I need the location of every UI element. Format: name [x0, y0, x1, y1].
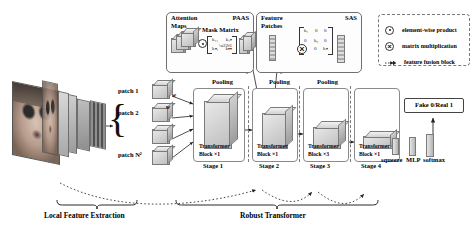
mask-matrix-ellipsis: \u22f1: [219, 43, 232, 48]
legend-label-fusion: feature fusion block: [404, 59, 455, 65]
dashed-arrow-icon: [385, 59, 397, 66]
patch-cube-3: [152, 129, 168, 142]
patch-label-n: patch N²: [118, 152, 142, 159]
stage-1-block-label: Transformer: [199, 144, 230, 150]
sas-matrix-entry-2: 0: [315, 28, 318, 33]
mask-matrix: k₁₁ k₁ₙ kₙ₁ kₙₙ \u22f1: [207, 36, 237, 52]
caption-local-feature-extraction: Local Feature Extraction: [44, 212, 125, 220]
element-wise-product-legend-icon: [385, 26, 394, 35]
stage-4-name: Stage 4: [361, 163, 381, 170]
pooling-label-3: Pooling: [317, 79, 338, 86]
feature-patches-label-line1: Feature: [261, 15, 283, 22]
pooling-label-1: Pooling: [212, 79, 233, 86]
sas-output-bar: [337, 35, 345, 63]
sas-matrix-entry-3: 0: [324, 28, 327, 33]
stage-box-3: Transformer Block ×3: [303, 88, 349, 162]
legend-label-matrix-mult: matrix multiplication: [402, 43, 457, 49]
sas-matrix-entry-6: 0: [324, 38, 327, 43]
squeeze-bar: [392, 138, 399, 155]
patch-cube-n: [152, 150, 168, 163]
stage-4-block-count: Block ×1: [359, 152, 380, 158]
squeeze-label: squeeze: [381, 157, 402, 164]
sas-matrix-entry-8: 0: [314, 46, 317, 51]
mlp-bar: [409, 137, 416, 156]
stage-3-block-label: Transformer: [308, 144, 339, 150]
stage-1-name: Stage 1: [203, 163, 223, 170]
stage-3-block-count: Block ×3: [308, 152, 329, 158]
stage-2-name: Stage 2: [259, 163, 279, 170]
patch-list: patch 1 patch 2 patch N² w w: [116, 86, 178, 170]
patch-cube-1: [152, 84, 168, 97]
architecture-diagram: {: [0, 0, 474, 236]
mlp-label: MLP: [406, 157, 420, 164]
stage-box-1: Transformer Block ×1: [193, 88, 245, 162]
feature-patches-label-line2: Patches: [261, 23, 282, 30]
softmax-label: softmax: [423, 157, 445, 164]
stage-4-block-label: Transformer: [359, 144, 390, 150]
stage-2-tensor: [262, 113, 286, 147]
mask-matrix-label: Mask Matrix: [202, 27, 239, 34]
sas-label: SAS: [345, 15, 357, 22]
output-label-box: Fake 0/Real 1: [404, 98, 464, 113]
stage-3-name: Stage 3: [310, 163, 330, 170]
legend-label-element-wise: element-wise product: [402, 27, 457, 33]
sas-matrix-entry-9: kₙ: [323, 46, 328, 51]
output-label: Fake 0/Real 1: [415, 102, 453, 109]
paas-output-cubes: [239, 33, 253, 55]
paas-label: PAAS: [233, 15, 250, 22]
sas-matrix-entry-1: k₁: [304, 28, 308, 33]
stage-2-block-count: Block ×1: [257, 152, 278, 158]
conv-feature-maps: [56, 84, 108, 168]
patch-weight-1: w: [172, 92, 176, 98]
caption-robust-transformer: Robust Transformer: [240, 212, 306, 220]
patch-label-1: patch 1: [118, 88, 138, 95]
mask-matrix-entry-1n: k₁ₙ: [226, 37, 232, 42]
softmax-bar: [426, 134, 434, 157]
element-wise-product-icon: [198, 39, 207, 48]
matrix-multiplication-icon: ⨯: [297, 44, 307, 54]
matrix-multiplication-legend-icon: ⨯: [385, 42, 394, 51]
pooling-label-2: Pooling: [269, 79, 290, 86]
patch-label-2: patch 2: [118, 110, 138, 117]
attention-maps-label-line1: Attention: [171, 15, 197, 22]
paas-module: Attention Maps PAAS: [166, 12, 254, 73]
sas-module: Feature Patches SAS k₁ 0 0 0 k₂ 0 0 0 kₙ…: [256, 12, 362, 73]
stage-2-block-label: Transformer: [257, 144, 288, 150]
stage-separator-3: [350, 86, 351, 162]
feature-patch-bar: [269, 35, 276, 61]
stage-1-tensor: [204, 101, 230, 147]
stage-separator-1: [248, 86, 249, 162]
attention-map-cubes: [171, 32, 197, 56]
stage-separator-2: [299, 86, 300, 162]
stage-box-2: Transformer Block ×1: [252, 88, 298, 162]
mask-matrix-entry-n1: kₙ₁: [212, 46, 218, 51]
patch-weight-2: w: [166, 104, 170, 110]
local-feature-extraction-group: [12, 78, 108, 174]
stage-1-block-count: Block ×1: [199, 152, 220, 158]
legend-box: element-wise product ⨯ matrix multiplica…: [378, 14, 470, 66]
sas-matrix-entry-4: 0: [304, 38, 307, 43]
legend-item-fusion: feature fusion block: [385, 52, 455, 70]
mask-matrix-entry-11: k₁₁: [212, 37, 218, 42]
sas-matrix-entry-5: k₂: [314, 38, 318, 43]
